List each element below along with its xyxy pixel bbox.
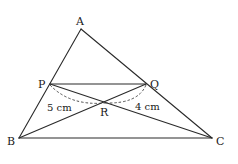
vertex-label-c: C [216, 135, 224, 148]
vertex-label-a: A [75, 15, 85, 28]
vertex-label-p: P [38, 78, 46, 91]
measure-arc-pr [50, 85, 105, 103]
measure-label-rq: 4 cm [135, 101, 160, 112]
segment-pc [50, 84, 212, 138]
segment-bq [19, 84, 146, 138]
measure-label-pr: 5 cm [47, 102, 72, 113]
vertex-label-b: B [7, 135, 15, 148]
vertex-label-q: Q [150, 78, 159, 91]
triangle-diagram: A P Q R B C 5 cm 4 cm [0, 0, 238, 164]
vertex-label-r: R [100, 106, 109, 119]
